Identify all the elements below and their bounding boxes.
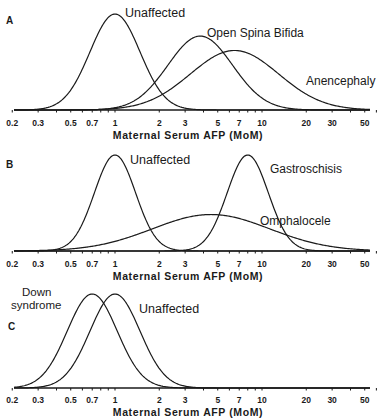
x-tick-label: 2 xyxy=(157,395,162,405)
x-tick-label: 1 xyxy=(113,259,118,269)
x-tick-label: 1 xyxy=(113,395,118,405)
x-tick-label: 5 xyxy=(215,395,220,405)
x-tick-label: 7 xyxy=(237,259,242,269)
label-unaffected-c: Unaffected xyxy=(139,302,199,316)
panel-c: Down syndrome C Unaffected 0.20.30.50.71… xyxy=(6,286,376,418)
x-tick-label: 5 xyxy=(215,118,220,128)
x-tick-label: 0.3 xyxy=(32,259,44,269)
x-tick-label: 50 xyxy=(360,118,370,128)
x-tick-label: 10 xyxy=(257,118,267,128)
x-tick-label: 0.5 xyxy=(65,395,77,405)
panel-b: B Unaffected Gastroschisis Omphalocele 0… xyxy=(6,153,376,282)
x-tick-label: 0.5 xyxy=(65,118,77,128)
x-tick-label: 50 xyxy=(360,259,370,269)
label-unaffected-b: Unaffected xyxy=(130,153,190,167)
label-omphalocele: Omphalocele xyxy=(260,214,331,228)
figure: A Unaffected Open Spina Bifida Anencepha… xyxy=(0,0,382,418)
x-tick-label: 30 xyxy=(327,259,337,269)
x-tick-label: 20 xyxy=(302,259,312,269)
label-unaffected-a: Unaffected xyxy=(125,6,185,20)
x-tick-label: 0.7 xyxy=(86,259,98,269)
label-down: Down xyxy=(22,286,51,298)
x-tick-label: 5 xyxy=(215,259,220,269)
x-tick-label: 0.3 xyxy=(32,118,44,128)
x-tick-label: 50 xyxy=(360,395,370,405)
x-tick-label: 20 xyxy=(302,118,312,128)
x-tick-label: 10 xyxy=(257,395,267,405)
x-tick-label: 2 xyxy=(157,118,162,128)
x-tick-label: 0.7 xyxy=(86,395,98,405)
x-tick-label: 10 xyxy=(257,259,267,269)
x-tick-label: 1 xyxy=(113,118,118,128)
label-gastroschisis: Gastroschisis xyxy=(270,162,342,176)
x-tick-label: 3 xyxy=(183,118,188,128)
x-tick-label: 3 xyxy=(183,395,188,405)
x-axis-title: Maternal Serum AFP (MoM) xyxy=(113,270,263,282)
panel-a-letter: A xyxy=(6,15,13,26)
x-tick-label: 0.7 xyxy=(86,118,98,128)
x-axis-b: 0.20.30.50.71235710203050Maternal Serum … xyxy=(6,251,376,282)
x-tick-label: 20 xyxy=(302,395,312,405)
x-tick-label: 7 xyxy=(237,118,242,128)
x-axis-c: 0.20.30.50.71235710203050Maternal Serum … xyxy=(6,388,376,418)
x-tick-label: 7 xyxy=(237,395,242,405)
label-syndrome: syndrome xyxy=(11,299,62,311)
x-tick-label: 30 xyxy=(327,118,337,128)
panel-c-letter: C xyxy=(8,321,15,332)
curve-unaffected xyxy=(14,14,370,110)
x-tick-label: 0.2 xyxy=(6,259,18,269)
x-tick-label: 2 xyxy=(157,259,162,269)
x-tick-label: 0.5 xyxy=(65,259,77,269)
x-axis-a: 0.20.30.50.71235710203050Maternal Serum … xyxy=(6,110,376,141)
x-tick-label: 0.3 xyxy=(32,395,44,405)
x-axis-title: Maternal Serum AFP (MoM) xyxy=(113,129,263,141)
x-tick-label: 0.2 xyxy=(6,118,18,128)
panel-a: A Unaffected Open Spina Bifida Anencepha… xyxy=(6,6,376,141)
x-tick-label: 0.2 xyxy=(6,395,18,405)
label-anencephaly: Anencephaly xyxy=(306,74,375,88)
x-tick-label: 3 xyxy=(183,259,188,269)
x-axis-title: Maternal Serum AFP (MoM) xyxy=(113,406,263,418)
label-open-spina-bifida: Open Spina Bifida xyxy=(207,26,304,40)
x-tick-label: 30 xyxy=(327,395,337,405)
curves-a xyxy=(14,14,370,110)
panel-b-letter: B xyxy=(6,159,13,170)
